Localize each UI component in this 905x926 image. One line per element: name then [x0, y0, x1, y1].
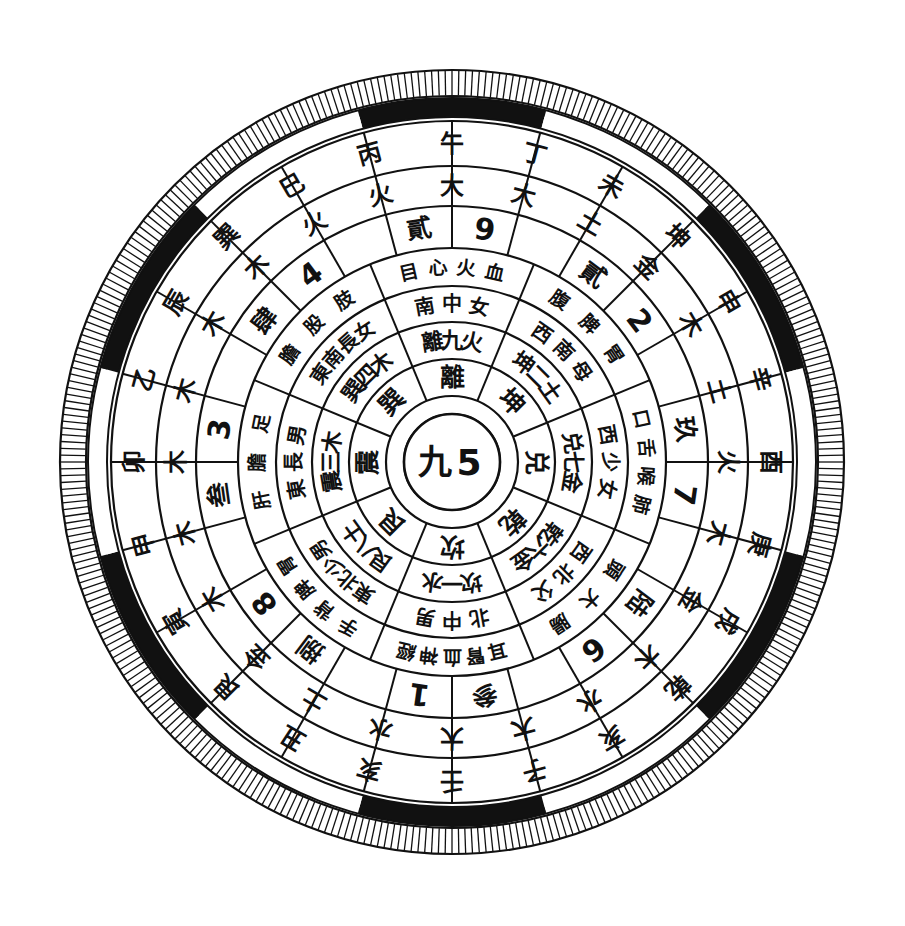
ring-cell-label: 壬 — [440, 767, 464, 795]
ring-cell-label: 火 — [459, 328, 485, 356]
ring-cell-label: 心 — [427, 256, 448, 279]
ring-cell-label: 震 — [353, 449, 382, 475]
ring-cell-label: 兑 — [522, 450, 551, 475]
ring-cell-label: 膽 — [246, 453, 268, 473]
ring-cell-label: 血 — [443, 646, 462, 668]
ring-cell-label: 大 — [440, 172, 464, 200]
ring-cell-label: 参 — [470, 679, 499, 711]
ring-cell-label: 叁 — [203, 479, 235, 510]
ring-cell-label: 東 — [283, 478, 310, 502]
ring-cell-label: 木 — [162, 449, 190, 475]
ring-cell-label: 女 — [594, 478, 621, 502]
ring-cell-label: 坎 — [440, 532, 465, 561]
ring-cell-label: 少 — [598, 451, 622, 472]
ring-cell-label: 女 — [468, 293, 492, 320]
ring-cell-label: 火 — [714, 450, 742, 474]
ring-cell-label: 腎 — [464, 644, 485, 668]
ring-cell-label: 午 — [440, 130, 464, 158]
ring-cell-label: 舌 — [635, 437, 658, 458]
ring-cell-label: 離 — [440, 363, 465, 392]
ring-cell-label: 玖 — [669, 415, 701, 444]
ring-cell-label: 北 — [468, 604, 492, 631]
ring-cell-label: 貳 — [405, 213, 434, 245]
ring-cell-label: 西 — [594, 423, 621, 447]
center-arabic-numeral: 5 — [456, 442, 481, 483]
center-disc: 九5 — [404, 414, 500, 510]
ring-cell-label: 南 — [413, 293, 437, 320]
ring-cell-label: 卯 — [120, 450, 148, 474]
ring-cell-label: 大 — [440, 724, 464, 752]
ring-cell-label: 男 — [413, 604, 437, 631]
ring-cell-label: 喉 — [635, 466, 658, 488]
ring-cell-label: 長 — [282, 451, 306, 472]
ring-cell-label: 男 — [283, 423, 310, 447]
ring-cell-label: 火 — [456, 256, 478, 279]
ring-cell-label: 中 — [442, 608, 462, 632]
ring-cell-label: 神 — [418, 644, 439, 668]
ring-cell-label: 酉 — [757, 450, 785, 474]
luopan-svg: 子壬亥丑艮寅甲卯乙辰巽巳丙午丁未坤申辛酉庚戌乾亥大大水土金木木木木木木火火大大土… — [0, 0, 905, 926]
luopan-diagram: 子壬亥丑艮寅甲卯乙辰巽巳丙午丁未坤申辛酉庚戌乾亥大大水土金木木木木木木火火大大土… — [0, 0, 905, 926]
center-chinese-numeral: 九 — [418, 442, 452, 482]
ring-cell-label: 中 — [442, 292, 462, 316]
